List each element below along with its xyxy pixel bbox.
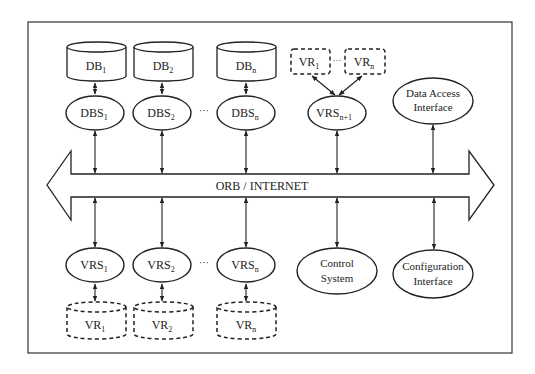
vr-server-1: VRS1: [66, 248, 124, 282]
svg-text:Interface: Interface: [413, 101, 452, 113]
virtual-repo-2: VR2: [134, 302, 193, 339]
svg-text:DBSn: DBSn: [231, 106, 258, 122]
vr-server-2: VRS2: [133, 248, 191, 282]
vrn-vrs-link: [339, 76, 362, 95]
control-system: Control System: [297, 248, 377, 294]
database-n: DBn: [217, 42, 276, 81]
virtual-repo-top-1: VR1: [291, 49, 330, 74]
vr-server-n: VRSn: [217, 248, 275, 282]
svg-text:Control: Control: [320, 257, 354, 269]
db-server-1: DBS1: [66, 96, 124, 130]
virtual-repo-n: VRn: [217, 302, 276, 339]
orb-internet-bus: ORB / INTERNET: [47, 151, 494, 220]
svg-text:VRS1: VRS1: [80, 258, 107, 274]
svg-text:Interface: Interface: [413, 275, 452, 287]
db-server-2: DBS2: [133, 96, 191, 130]
virtual-repo-1: VR1: [67, 302, 126, 339]
db-server-ellipsis: ···: [199, 105, 209, 116]
data-access-interface: Data Access Interface: [393, 78, 473, 124]
svg-text:DBS2: DBS2: [147, 106, 174, 122]
vr-server-n-plus-1: VRSn+1: [308, 96, 366, 130]
vr-server-ellipsis: ···: [199, 257, 209, 268]
db-server-n: DBSn: [217, 96, 275, 130]
configuration-interface: Configuration Interface: [393, 250, 473, 298]
svg-text:VRSn: VRSn: [231, 258, 258, 274]
svg-text:VRS2: VRS2: [147, 258, 174, 274]
virtual-repo-ellipsis: ···: [333, 55, 342, 65]
svg-text:Configuration: Configuration: [402, 260, 464, 272]
architecture-diagram: ORB / INTERNET DB1 DB2 DBn DBS1 DBS2 ···…: [0, 0, 535, 374]
svg-text:DBS1: DBS1: [80, 106, 107, 122]
virtual-repo-top-n: VRn: [345, 49, 385, 74]
vr1-vrs-link: [312, 76, 335, 95]
database-2: DB2: [134, 42, 193, 81]
svg-text:System: System: [321, 272, 354, 284]
database-1: DB1: [67, 42, 126, 81]
svg-text:Data Access: Data Access: [406, 87, 460, 99]
bus-label: ORB / INTERNET: [216, 179, 309, 193]
